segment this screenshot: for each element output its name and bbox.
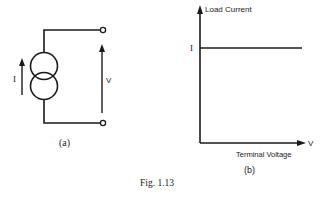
figure-1-13: I V (a) Load Current V Terminal Voltage …: [0, 0, 324, 199]
current-source-icon: [31, 53, 58, 100]
x-axis: [200, 140, 306, 146]
top-wire: [44, 30, 100, 52]
voltage-arrow-icon: [99, 44, 105, 113]
panel-a-circuit: I V (a): [13, 27, 112, 149]
panel-b-label: (b): [244, 165, 255, 175]
x-axis-arrow-icon: [297, 140, 306, 146]
x-axis-symbol: V: [308, 139, 314, 148]
voltage-label: V: [106, 76, 112, 85]
current-level-label: I: [190, 43, 193, 53]
y-axis-arrow-icon: [197, 5, 203, 14]
y-axis: [197, 5, 203, 143]
current-label: I: [13, 74, 16, 84]
panel-b-graph: Load Current V Terminal Voltage I (b): [190, 5, 314, 175]
bottom-terminal: [100, 120, 105, 125]
figure-caption: Fig. 1.13: [140, 178, 174, 188]
panel-a-label: (a): [59, 137, 70, 149]
y-axis-label: Load Current: [205, 5, 252, 14]
current-arrow-icon: [19, 58, 25, 95]
x-axis-label: Terminal Voltage: [236, 150, 291, 159]
top-terminal: [100, 27, 105, 32]
bottom-wire: [44, 100, 100, 123]
